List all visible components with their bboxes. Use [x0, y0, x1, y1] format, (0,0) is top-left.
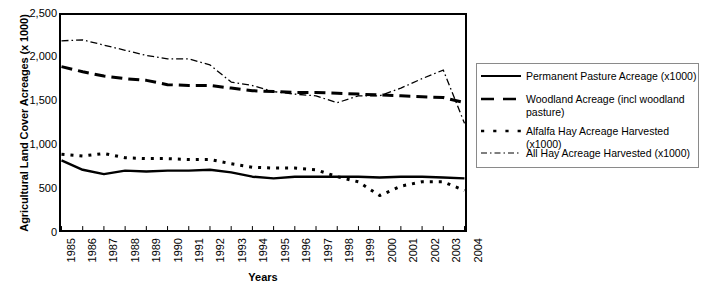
y-axis-tick-label: 0 [17, 227, 57, 238]
series-line-1 [61, 67, 464, 103]
x-axis-tick-label: 2004 [473, 238, 484, 278]
solid-line-icon [480, 70, 522, 82]
x-axis-title: Years [59, 271, 467, 283]
chart-plot-svg [61, 15, 465, 230]
legend-item-all-hay: All Hay Acreage Harvested (x1000) [477, 147, 700, 160]
legend-item-permanent-pasture: Permanent Pasture Acreage (x1000) [477, 70, 700, 83]
dotted-line-icon [480, 125, 522, 137]
series-line-3 [61, 40, 464, 123]
plot-area [59, 13, 467, 232]
y-axis-tick-label: 1,000 [17, 139, 57, 150]
legend-item-woodland: Woodland Acreage (incl woodland pasture) [477, 93, 700, 118]
chart-legend: Permanent Pasture Acreage (x1000) Woodla… [476, 63, 699, 168]
legend-item-label: Permanent Pasture Acreage (x1000) [526, 70, 700, 83]
series-line-2 [61, 153, 464, 195]
y-axis-tick-label: 2,500 [17, 8, 57, 19]
legend-item-label: All Hay Acreage Harvested (x1000) [526, 147, 700, 160]
y-axis-tick-labels: 2,5002,0001,5001,0005000 [13, 0, 57, 290]
legend-item-label: Woodland Acreage (incl woodland pasture) [526, 93, 700, 118]
chart-root: Agricultural Land Cover Acreages (x 1000… [0, 0, 704, 290]
dash-dot-line-icon [480, 147, 522, 159]
y-axis-tick-label: 500 [17, 183, 57, 194]
series-line-0 [61, 160, 464, 178]
y-axis-tick-label: 1,500 [17, 95, 57, 106]
y-axis-tick-label: 2,000 [17, 51, 57, 62]
dashed-line-icon [480, 93, 522, 105]
